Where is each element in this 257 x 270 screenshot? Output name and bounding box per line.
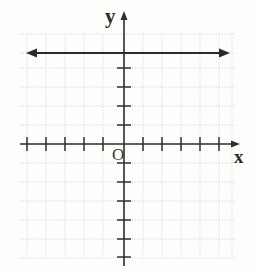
y-axis [121, 11, 128, 266]
y-axis-label: y [105, 6, 116, 27]
graph-figure: y x O [0, 0, 257, 270]
plotted-line-y-equals-5 [26, 49, 230, 58]
origin-label: O [112, 146, 124, 163]
line-left-arrowhead [26, 49, 37, 58]
coordinate-plane-svg [0, 0, 257, 270]
x-axis [20, 141, 240, 148]
line-right-arrowhead [219, 49, 230, 58]
x-axis-label: x [234, 147, 244, 166]
